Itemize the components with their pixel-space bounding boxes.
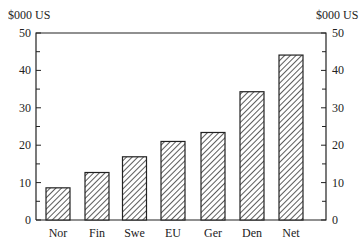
y-tick-label-right: 20 xyxy=(332,138,344,152)
y-tick-label-left: 40 xyxy=(19,63,31,77)
x-tick-label: Fin xyxy=(89,226,105,240)
x-tick-label: Nor xyxy=(49,226,68,240)
y-tick-label-left: 10 xyxy=(19,176,31,190)
y-tick-label-right: 0 xyxy=(332,213,338,227)
bar-ger xyxy=(201,132,225,220)
y-tick-label-left: 50 xyxy=(19,26,31,40)
bar-nor xyxy=(46,188,70,220)
y-tick-label-left: 30 xyxy=(19,101,31,115)
bar-eu xyxy=(161,141,185,220)
bar-den xyxy=(240,92,264,220)
y-tick-label-right: 50 xyxy=(332,26,344,40)
y-axis-label-left: $000 US xyxy=(8,8,50,22)
y-tick-label-right: 40 xyxy=(332,63,344,77)
plot-area: 0010102020303040405050NorFinSweEUGerDenN… xyxy=(19,26,344,240)
bar-swe xyxy=(123,157,147,220)
x-tick-label: Ger xyxy=(204,226,222,240)
bar-chart: $000 US $000 US 0010102020303040405050No… xyxy=(0,0,363,250)
y-tick-label-left: 0 xyxy=(25,213,31,227)
x-tick-label: Net xyxy=(282,226,300,240)
bar-fin xyxy=(85,173,109,220)
y-tick-label-right: 30 xyxy=(332,101,344,115)
x-tick-label: Den xyxy=(242,226,262,240)
bar-net xyxy=(279,55,303,220)
y-tick-label-left: 20 xyxy=(19,138,31,152)
x-tick-label: Swe xyxy=(124,226,145,240)
y-axis-label-right: $000 US xyxy=(316,8,358,22)
y-tick-label-right: 10 xyxy=(332,176,344,190)
x-tick-label: EU xyxy=(165,226,181,240)
